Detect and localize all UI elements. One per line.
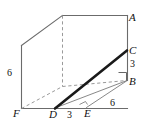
hidden-edge-back-bottom-right bbox=[63, 81, 127, 87]
hidden-edge-floor-diagonal bbox=[22, 87, 63, 109]
figure-canvas bbox=[0, 0, 144, 128]
vertex-label-f: F bbox=[13, 108, 20, 119]
vertex-label-b: B bbox=[129, 76, 136, 87]
segment-E-B-visible bbox=[87, 81, 127, 108]
right-angle-mark-E bbox=[80, 102, 88, 105]
vertex-label-c: C bbox=[129, 45, 136, 56]
measurement-label-de: 3 bbox=[67, 110, 72, 120]
segment-D-B bbox=[55, 81, 127, 109]
vertex-label-d: D bbox=[49, 109, 57, 120]
measurement-label-eb: 6 bbox=[110, 98, 115, 108]
auxiliary-triangle bbox=[55, 81, 127, 109]
measurement-label-left-height: 6 bbox=[7, 68, 12, 78]
right-angle-mark-B bbox=[119, 73, 127, 81]
geometry-figure: A C B F D E 6 3 6 3 bbox=[0, 0, 144, 128]
emphasis-segment-DC bbox=[55, 51, 127, 109]
vertex-label-a: A bbox=[129, 12, 136, 23]
vertex-label-e: E bbox=[84, 108, 91, 119]
edge-top-left-slant bbox=[22, 16, 63, 46]
measurement-label-cb: 3 bbox=[130, 59, 135, 69]
